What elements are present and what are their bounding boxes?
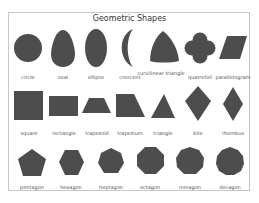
circle-shape	[14, 34, 42, 62]
pentagon-shape	[18, 149, 46, 176]
label-triangle: triangle	[143, 130, 183, 136]
heptagon-shape	[98, 148, 124, 173]
hexagon-shape	[59, 150, 84, 175]
triangle-shape	[151, 94, 175, 118]
quatrefoil-shape	[185, 33, 216, 64]
trapezium-shape	[116, 94, 145, 117]
label-rhombus: rhombus	[213, 130, 253, 136]
nonagon-shape	[176, 147, 204, 174]
label-decagon: decagon	[210, 184, 250, 190]
label-curvilinear-triangle: curvilinear triangle	[137, 70, 185, 76]
label-parallelogram: parallelogram	[213, 74, 253, 80]
label-hexagon: hexagon	[51, 184, 91, 190]
crescent-shape	[122, 29, 133, 67]
label-kite: kite	[178, 130, 218, 136]
shapes-canvas	[0, 0, 259, 203]
trapezoid-shape	[82, 98, 111, 113]
label-square: square	[9, 130, 49, 136]
label-octagon: octagon	[130, 184, 170, 190]
label-circle: circle	[8, 74, 48, 80]
oval-shape	[51, 30, 75, 67]
rectangle-shape	[49, 96, 78, 116]
octagon-shape	[137, 147, 164, 174]
label-heptagon: heptagon	[91, 184, 131, 190]
square-shape	[14, 91, 43, 120]
curvilinear-triangle-shape	[150, 31, 179, 63]
parallelogram-shape	[219, 36, 247, 59]
kite-shape	[185, 86, 211, 121]
label-pentagon: pentagon	[12, 184, 52, 190]
ellipse-shape	[85, 29, 107, 67]
rhombus-shape	[223, 87, 243, 121]
decagon-shape	[216, 147, 244, 175]
label-nonagon: nonagon	[170, 184, 210, 190]
